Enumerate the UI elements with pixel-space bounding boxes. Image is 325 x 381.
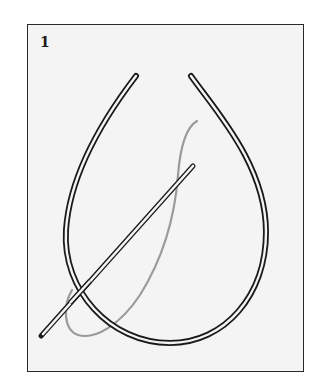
- loop-of-cord: [66, 76, 266, 343]
- needle-and-loop-illustration: [0, 0, 325, 381]
